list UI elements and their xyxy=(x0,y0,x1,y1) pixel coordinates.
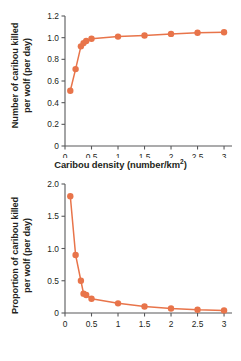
svg-text:1: 1 xyxy=(116,319,121,329)
svg-text:0: 0 xyxy=(54,308,59,318)
svg-text:2.5: 2.5 xyxy=(192,319,204,329)
svg-text:2.0: 2.0 xyxy=(47,180,59,189)
svg-text:0.2: 0.2 xyxy=(47,119,59,129)
x-axis-title-top-text: Caribou density (number/km xyxy=(54,159,180,170)
svg-text:0.5: 0.5 xyxy=(86,319,98,329)
svg-text:1.0: 1.0 xyxy=(47,33,59,43)
svg-text:1.5: 1.5 xyxy=(47,211,59,221)
plot-area-top: 00.20.40.60.81.01.200.511.522.53 xyxy=(0,0,241,158)
svg-text:0: 0 xyxy=(63,319,68,329)
svg-text:1.2: 1.2 xyxy=(47,11,59,21)
figure-container: Number of caribou killed per wolf (per d… xyxy=(0,0,241,361)
svg-text:0: 0 xyxy=(54,141,59,151)
svg-text:3: 3 xyxy=(222,319,227,329)
svg-text:2: 2 xyxy=(169,319,174,329)
svg-text:0.8: 0.8 xyxy=(47,54,59,64)
x-axis-title-top-tail: ) xyxy=(184,159,187,170)
svg-text:1.5: 1.5 xyxy=(139,319,151,329)
svg-text:0.6: 0.6 xyxy=(47,76,59,86)
chart-panel-top: Number of caribou killed per wolf (per d… xyxy=(0,0,241,180)
plot-area-bottom: 00.51.01.52.000.511.522.53 xyxy=(0,180,241,330)
chart-panel-bottom: Proportion of caribou killed per wolf (p… xyxy=(0,180,241,361)
x-axis-title-top: Caribou density (number/km2) xyxy=(0,158,241,170)
svg-text:0.4: 0.4 xyxy=(47,98,59,108)
svg-text:0.5: 0.5 xyxy=(47,276,59,286)
svg-text:1.0: 1.0 xyxy=(47,244,59,254)
